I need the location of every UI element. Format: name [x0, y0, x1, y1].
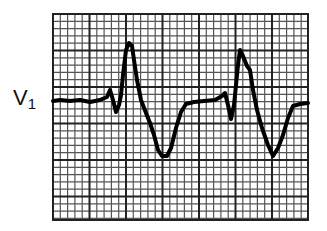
ecg-waveform-trace: [53, 43, 308, 156]
lead-number: 1: [28, 95, 36, 112]
ecg-grid-and-trace: [0, 0, 327, 231]
lead-label-v1: V1: [13, 85, 36, 112]
lead-letter: V: [13, 85, 28, 110]
